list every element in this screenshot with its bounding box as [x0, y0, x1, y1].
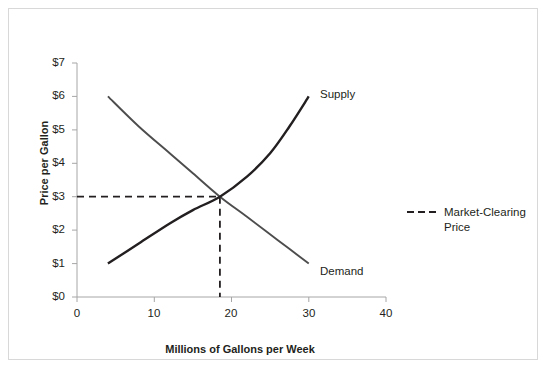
x-tick-label-30: 30 [289, 307, 329, 319]
legend-label-line1: Market-Clearing [444, 206, 526, 218]
x-axis-ticks [77, 297, 386, 302]
demand-curve-label: Demand [320, 265, 363, 277]
legend-dashed-line-swatch [407, 205, 437, 219]
x-tick-label-20: 20 [211, 307, 251, 319]
x-tick-label-10: 10 [134, 307, 174, 319]
x-tick-label-40: 40 [366, 307, 406, 319]
chart-figure: $7 $6 $5 $4 $3 $2 $1 $0 0 10 20 30 40 Pr… [0, 0, 549, 374]
y-tick-label-0: $0 [31, 290, 65, 302]
legend-label-line2: Price [444, 221, 470, 233]
legend-entry-label: Market-Clearing Price [444, 205, 540, 235]
supply-curve [108, 96, 309, 263]
x-tick-label-0: 0 [57, 307, 97, 319]
y-axis-title: Price per Gallon [38, 103, 50, 223]
y-tick-label-1: $1 [31, 257, 65, 269]
x-axis-title: Millions of Gallons per Week [85, 343, 395, 355]
chart-legend: Market-Clearing Price [407, 205, 540, 235]
chart-frame: $7 $6 $5 $4 $3 $2 $1 $0 0 10 20 30 40 Pr… [8, 8, 538, 360]
supply-curve-label: Supply [320, 88, 355, 100]
demand-curve-main [108, 96, 309, 263]
y-tick-label-7: $7 [31, 56, 65, 68]
y-axis-ticks [72, 63, 77, 297]
y-tick-label-6: $6 [31, 89, 65, 101]
y-tick-label-2: $2 [31, 223, 65, 235]
